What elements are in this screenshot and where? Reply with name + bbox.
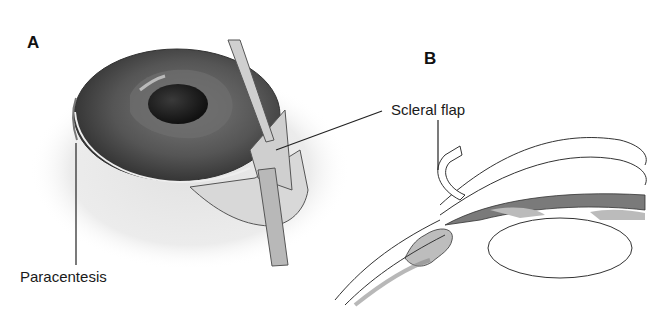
panel-label-b: B — [424, 49, 436, 69]
figure-canvas: A B Scleral flap Paracentesis — [0, 0, 668, 315]
panel-a-illustration — [30, 40, 350, 270]
callout-scleral-flap: Scleral flap — [391, 101, 465, 118]
panel-label-a: A — [27, 33, 39, 53]
panel-b-illustration — [335, 138, 646, 305]
callout-paracentesis: Paracentesis — [20, 268, 107, 285]
